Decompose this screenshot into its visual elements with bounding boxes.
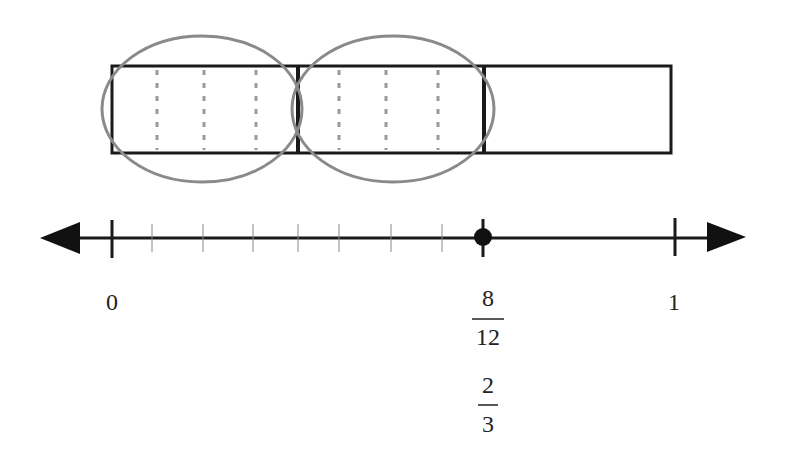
numerator: 8	[482, 285, 494, 311]
right-arrow-icon	[707, 222, 746, 252]
label-one: 1	[668, 289, 680, 315]
fraction-8-12: 8 12	[472, 285, 504, 350]
denominator: 3	[482, 411, 494, 437]
fraction-diagram: 0 1 8 12 2 3	[0, 0, 786, 463]
fraction-bar	[102, 36, 671, 182]
left-arrow-icon	[40, 222, 80, 254]
denominator: 12	[476, 324, 500, 350]
group-circle-1	[102, 36, 302, 182]
label-zero: 0	[106, 289, 118, 315]
group-circle-2	[292, 36, 494, 182]
number-line	[40, 218, 746, 258]
point-marker	[474, 228, 492, 246]
fraction-2-3: 2 3	[478, 372, 498, 437]
diagram-canvas: 0 1 8 12 2 3	[0, 0, 786, 463]
numerator: 2	[482, 372, 494, 398]
